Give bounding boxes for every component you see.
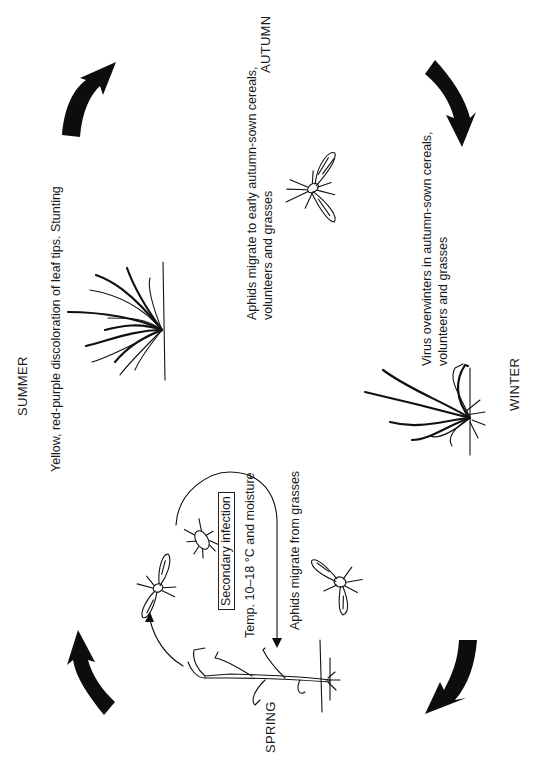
autumn-caption-line2: volunteers and grasses [261, 191, 276, 320]
season-label-autumn: AUTUMN [258, 16, 273, 73]
winter-caption-line1: Virus overwinters in autumn-sown cereals… [420, 131, 435, 366]
spring-winged-aphid-left-icon [121, 553, 190, 618]
spring-dispersal-arrow [145, 612, 183, 666]
spring-migration-caption: Aphids migrate from grasses [288, 471, 303, 630]
season-label-spring: SPRING [263, 701, 278, 753]
summer-caption: Yellow, red-purple discoloration of leaf… [49, 186, 64, 472]
autumn-winged-aphid-icon [277, 150, 367, 238]
spring-winged-aphid-right-icon [298, 553, 365, 617]
secondary-infection-label: Secondary infection [218, 492, 235, 610]
cycle-arrow-bottom-left-icon [67, 630, 115, 715]
winter-caption-line2: volunteers and grasses [436, 237, 451, 366]
wingless-aphid-icon [180, 516, 222, 561]
season-label-winter: WINTER [507, 358, 522, 411]
summer-cereal-plant-icon [68, 262, 165, 380]
cycle-arrow-top-left-icon [62, 62, 116, 137]
temperature-moisture-caption: Temp. 10–18 °C and moisture [243, 472, 258, 638]
diagram-illustration [0, 0, 552, 771]
cycle-arrow-bottom-right-icon [425, 640, 477, 714]
season-label-summer: SUMMER [15, 356, 30, 416]
autumn-caption-line1: Aphids migrate to early autumn-sown cere… [245, 66, 260, 320]
winter-cereal-plant-icon [365, 364, 485, 455]
